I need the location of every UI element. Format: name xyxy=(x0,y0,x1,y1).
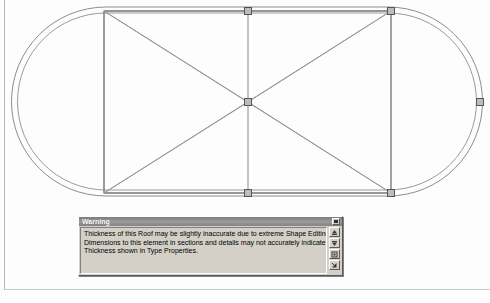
close-button[interactable] xyxy=(332,218,340,225)
warning-message-line-1: Thickness of this Roof may be slightly i… xyxy=(84,230,323,239)
view-border-bottom xyxy=(4,289,490,290)
warning-dialog-body: Thickness of this Roof may be slightly i… xyxy=(79,226,342,275)
warning-message-line-2: Dimensions to this element in sections a… xyxy=(84,239,323,248)
warning-tool-button-column xyxy=(327,227,341,274)
grip-bottom-right[interactable] xyxy=(388,190,395,197)
grip-right-edge[interactable] xyxy=(477,99,484,106)
previous-warning-button[interactable] xyxy=(329,227,340,237)
show-element-button[interactable] xyxy=(329,249,340,259)
warning-message-line-3: Thickness shown in Type Properties. xyxy=(84,247,323,256)
application-window: Warning Thickness of this Roof may be sl… xyxy=(0,0,490,303)
expand-warning-button[interactable] xyxy=(329,260,340,270)
up-arrow-icon xyxy=(331,229,338,236)
warning-dialog-titlebar[interactable]: Warning xyxy=(79,217,342,226)
view-border-left xyxy=(4,0,5,290)
down-arrow-icon xyxy=(331,240,338,247)
warning-dialog-title: Warning xyxy=(82,218,332,226)
warning-message-area: Thickness of this Roof may be slightly i… xyxy=(80,227,327,274)
window-close-icon xyxy=(334,220,338,223)
grip-center[interactable] xyxy=(245,99,252,106)
expand-arrow-icon xyxy=(331,262,338,269)
next-warning-button[interactable] xyxy=(329,238,340,248)
warning-dialog[interactable]: Warning Thickness of this Roof may be sl… xyxy=(78,216,343,276)
show-box-icon xyxy=(331,251,338,258)
grip-top-right[interactable] xyxy=(388,8,395,15)
grip-bottom-center[interactable] xyxy=(245,190,252,197)
grip-top-center[interactable] xyxy=(245,8,252,15)
